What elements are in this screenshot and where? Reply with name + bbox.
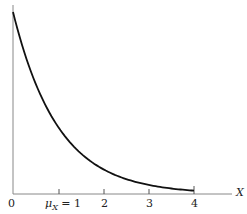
chart-plot xyxy=(0,0,247,214)
tick-label-3: 3 xyxy=(146,197,153,210)
x-ticks xyxy=(59,186,194,194)
x-axis-label: X xyxy=(236,186,244,199)
tick-label-mean: μX = 1 xyxy=(45,197,81,212)
mean-value: = 1 xyxy=(58,197,81,210)
tick-label-4: 4 xyxy=(191,197,198,210)
tick-label-0: 0 xyxy=(8,197,15,210)
density-curve xyxy=(13,12,194,191)
tick-label-2: 2 xyxy=(101,197,108,210)
